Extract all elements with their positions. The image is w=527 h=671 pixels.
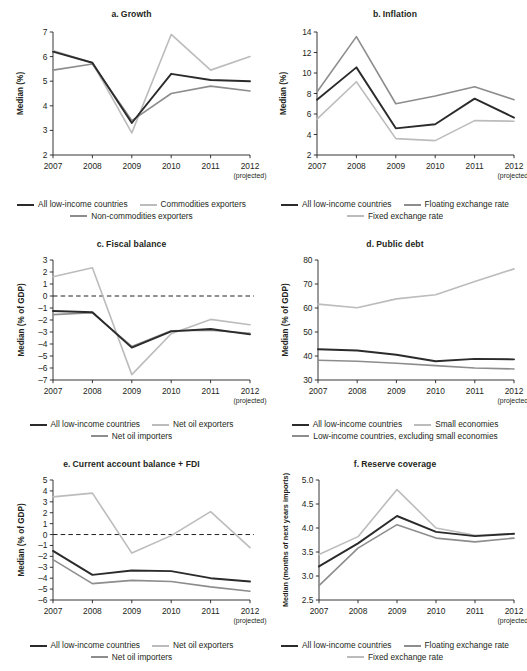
legend-row: Fixed exchange rate <box>347 653 443 661</box>
panel-c-legend: All low-income countries Net oil exporte… <box>0 420 263 440</box>
legend-item: Low-income countries, excluding small ec… <box>292 432 497 440</box>
series-line <box>53 493 250 553</box>
legend-swatch-icon <box>91 435 108 437</box>
panel-a-title: a.Growth <box>0 9 263 19</box>
legend-label: All low-income countries <box>313 420 402 428</box>
panel-f-title-text: Reserve coverage <box>361 459 436 469</box>
x-tick-label: 2009 <box>122 386 141 396</box>
y-tick-label: –6 <box>38 595 48 605</box>
panel-e-title: e.Current account balance + FDI <box>0 459 263 469</box>
y-tick-label: 40 <box>303 351 313 361</box>
legend-label: Net oil importers <box>112 432 172 440</box>
y-axis-label: Median (% of GDP) <box>17 503 26 577</box>
panel-d-plot: 304050607080200720082009201020112012(pro… <box>263 252 527 412</box>
legend-label: All low-income countries <box>302 641 391 649</box>
panel-e-chart: –6–5–4–3–2–10123452007200820092010201120… <box>0 472 263 632</box>
series-line <box>317 37 514 104</box>
legend-item: All low-income countries <box>17 200 127 208</box>
legend-label: Low-income countries, excluding small ec… <box>313 432 497 440</box>
panel-f-reserve-coverage: f.Reserve coverage 2.53.03.54.04.55.0200… <box>263 450 527 671</box>
panel-b-plot: 2468101214200720082009201020112012(proje… <box>263 22 527 187</box>
legend-swatch-icon <box>404 645 421 647</box>
legend-swatch-icon <box>292 424 309 426</box>
y-tick-label: 7 <box>43 27 48 37</box>
legend-label: Fixed exchange rate <box>368 653 443 661</box>
legend-item: Fixed exchange rate <box>347 212 443 220</box>
y-tick-label: –7 <box>38 375 48 385</box>
legend-row: All low-income countries Small economies <box>292 420 499 428</box>
x-tick-label: 2010 <box>426 386 445 396</box>
x-tick-label: 2012 <box>241 161 260 171</box>
series-line <box>318 269 514 308</box>
y-tick-label: 6 <box>307 109 312 119</box>
legend-item: Fixed exchange rate <box>347 653 443 661</box>
legend-row: Net oil importers <box>91 653 172 661</box>
legend-label: All low-income countries <box>51 420 140 428</box>
panel-f-plot: 2.53.03.54.04.55.02007200820092010201120… <box>263 472 527 632</box>
legend-swatch-icon <box>281 204 298 206</box>
legend-row: Non-commodities exporters <box>70 212 192 220</box>
legend-item: All low-income countries <box>281 641 391 649</box>
y-axis-label: Median (%) <box>16 72 25 115</box>
x-tick-label: 2010 <box>427 606 446 616</box>
panel-b-title: b.Inflation <box>263 9 527 19</box>
x-tick-label: 2008 <box>83 161 102 171</box>
legend-label: Floating exchange rate <box>425 641 509 649</box>
x-tick-label: 2011 <box>202 161 220 171</box>
x-tick-label: 2007 <box>44 386 63 396</box>
x-tick-label: 2008 <box>83 606 102 616</box>
projected-note: (projected) <box>498 397 527 405</box>
y-tick-label: 4 <box>307 130 312 140</box>
panel-e-title-letter: e. <box>63 459 70 469</box>
y-axis-label: Median (% of GDP) <box>281 283 290 357</box>
x-tick-label: 2010 <box>162 386 181 396</box>
y-tick-label: –2 <box>38 551 48 561</box>
panel-d-legend: All low-income countries Small economies… <box>263 420 527 440</box>
series-line <box>53 311 250 348</box>
x-tick-label: 2012 <box>505 606 524 616</box>
y-axis-label: Median (% of GDP) <box>17 283 26 357</box>
x-tick-label: 2012 <box>505 386 524 396</box>
legend-row: All low-income countries Floating exchan… <box>281 200 509 208</box>
legend-item: Small economies <box>414 420 498 428</box>
legend-item: Net oil exporters <box>152 641 233 649</box>
y-tick-label: 4 <box>43 486 48 496</box>
legend-item: Net oil importers <box>91 653 172 661</box>
y-tick-label: –3 <box>38 562 48 572</box>
panel-d-title-letter: d. <box>366 239 374 249</box>
x-tick-label: 2011 <box>466 386 484 396</box>
y-tick-label: 60 <box>303 303 313 313</box>
x-tick-label: 2012 <box>241 606 260 616</box>
y-tick-label: 2 <box>307 150 312 160</box>
y-tick-label: 80 <box>303 255 313 265</box>
panel-d-public-debt: d.Public debt 30405060708020072008200920… <box>263 230 527 450</box>
projected-note: (projected) <box>498 172 527 180</box>
y-tick-label: 4.5 <box>302 499 314 509</box>
legend-swatch-icon <box>70 215 87 217</box>
legend-swatch-icon <box>17 204 34 206</box>
legend-label: Non-commodities exporters <box>91 212 192 220</box>
legend-label: All low-income countries <box>302 200 391 208</box>
x-tick-label: 2007 <box>309 386 328 396</box>
legend-swatch-icon <box>404 204 421 206</box>
legend-swatch-icon <box>292 435 309 437</box>
y-tick-label: 10 <box>302 68 312 78</box>
y-tick-label: 1 <box>43 519 48 529</box>
legend-item: Commodities exporters <box>140 200 246 208</box>
y-tick-label: 5.0 <box>302 475 314 485</box>
legend-label: Commodities exporters <box>161 200 246 208</box>
legend-row: Net oil importers <box>91 432 172 440</box>
legend-label: Fixed exchange rate <box>368 212 443 220</box>
y-tick-label: 0 <box>43 291 48 301</box>
panel-a-growth: a.Growth 234567200720082009201020112012(… <box>0 0 263 230</box>
series-line <box>318 360 514 369</box>
x-tick-label: 2009 <box>122 606 141 616</box>
legend-label: All low-income countries <box>51 641 140 649</box>
legend-swatch-icon <box>347 215 364 217</box>
projected-note: (projected) <box>234 172 267 180</box>
panel-b-inflation: b.Inflation 2468101214200720082009201020… <box>263 0 527 230</box>
projected-note: (projected) <box>234 397 267 405</box>
legend-swatch-icon <box>281 645 298 647</box>
panel-e-current-account-fdi: e.Current account balance + FDI –6–5–4–3… <box>0 450 263 671</box>
x-tick-label: 2007 <box>44 606 63 616</box>
